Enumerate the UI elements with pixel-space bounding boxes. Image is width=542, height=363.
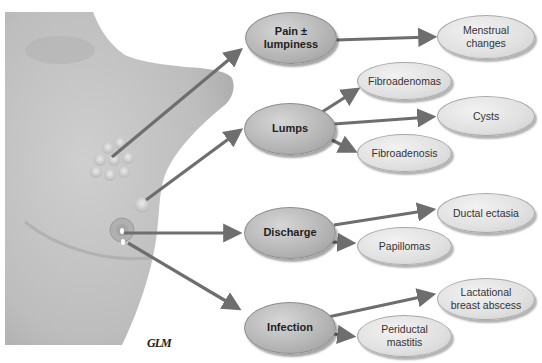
node-infection: Infection <box>244 302 336 354</box>
node-pain-lumpiness: Pain ±lumpiness <box>245 12 337 64</box>
node-label: Discharge <box>263 226 316 239</box>
node-label: Infection <box>267 321 313 334</box>
node-label: Fibroadenomas <box>368 75 441 88</box>
node-lactational-breast-abscess: Lactationalbreast abscess <box>437 278 535 320</box>
node-label: lumpiness <box>264 38 318 50</box>
node-lumps: Lumps <box>244 103 336 155</box>
arrow-lumps-to-cysts <box>334 117 430 124</box>
illustrator-credit: GLM <box>147 336 171 351</box>
node-label: breast abscess <box>451 299 522 311</box>
node-periductal-mastitis: Periductalmastitis <box>357 315 452 357</box>
node-label: Menstrual <box>463 24 509 36</box>
node-label: Periductal <box>381 323 428 335</box>
node-label: Lactational <box>461 286 512 298</box>
arrow-discharge-to-papillomas <box>332 242 350 243</box>
node-papillomas: Papillomas <box>357 227 452 265</box>
arrow-infection-to-mastitis <box>334 334 350 336</box>
node-label: Lumps <box>272 122 308 135</box>
node-label: Ductal ectasia <box>453 207 519 220</box>
node-cysts: Cysts <box>437 96 535 136</box>
node-label: changes <box>466 37 506 49</box>
node-ductal-ectasia: Ductal ectasia <box>437 193 535 233</box>
node-label: Fibroadenosis <box>372 147 438 160</box>
node-label: Papillomas <box>379 240 430 253</box>
arrow-discharge-to-ductal <box>334 210 430 225</box>
node-fibroadenomas: Fibroadenomas <box>357 62 452 100</box>
node-label: Pain ± <box>275 25 307 37</box>
node-label: mastitis <box>387 336 423 348</box>
arrow-infection-to-abscess <box>328 295 430 317</box>
arrow-lumps-to-fibroadenomas <box>322 91 355 112</box>
node-label: Cysts <box>473 110 499 123</box>
torso-shape <box>5 12 234 345</box>
node-menstrual-changes: Menstrualchanges <box>437 15 535 59</box>
diagram-canvas: Pain ±lumpiness Lumps Discharge Infectio… <box>0 0 542 363</box>
node-discharge: Discharge <box>244 207 336 259</box>
arrow-lumps-to-fibroadenosis <box>332 140 352 150</box>
arrow-pain-to-menstrual <box>336 37 431 40</box>
node-fibroadenosis: Fibroadenosis <box>357 134 452 172</box>
